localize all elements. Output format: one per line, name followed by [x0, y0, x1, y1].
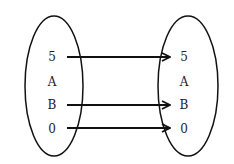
domain-element-a: A [47, 75, 57, 89]
codomain-element-5: 5 [180, 50, 188, 64]
domain-element-b: B [48, 98, 57, 112]
codomain-element-0: 0 [180, 122, 188, 136]
codomain-element-b: B [180, 98, 189, 112]
domain-element-5: 5 [48, 50, 56, 64]
domain-element-0: 0 [48, 122, 56, 136]
mapping-diagram: 5 A B 0 5 A B 0 [0, 0, 234, 164]
codomain-element-a: A [179, 75, 189, 89]
